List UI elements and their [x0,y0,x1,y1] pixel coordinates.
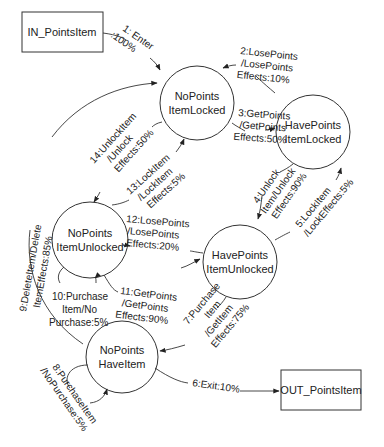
state-nopoints-haveitem: NoPoints HaveItem [86,321,158,393]
label-t2: 2:LosePoints /LosePoints Effects:10% [236,45,298,86]
state-label-line2: ItemLocked [169,104,226,116]
label-t6: 6:Exit:10% [192,377,241,395]
label-t10: 10:Purchase Item/No Purchase:5% [49,291,109,328]
edge-1b [150,58,160,70]
label-t13: 13:LockItem /LockItem Effects:5% [124,152,188,214]
edge-14b [94,192,100,202]
out-terminal: OUT_PointsItem [280,370,361,410]
state-label-line2: ItemUnlocked [206,263,273,275]
edge-12 [190,251,203,253]
edge-13 [112,200,129,205]
edge-2b [223,65,236,68]
label-t1: 1: Enter :100% [109,19,156,62]
edge-6 [155,368,188,383]
edge-7b [160,345,185,351]
edge-10b [95,278,96,283]
label-t12: 12:LosePoints /LosePoints Effects:20% [124,213,190,253]
in-terminal: IN_PointsItem [22,12,103,52]
edge-10 [58,267,64,283]
state-label-line2: ItemUnlocked [56,241,123,253]
edge-8b [90,389,107,403]
state-label-line1: NoPoints [175,90,220,102]
state-havepoints-itemlocked: HavePoints ItemLocked [276,95,350,169]
edge-13b [176,139,184,152]
state-label-line1: HavePoints [285,119,342,131]
label-t11: 11:GetPoints /GetPoints Effects:90% [115,285,178,327]
svg-text:Effects:50%: Effects:50% [233,131,287,146]
state-nopoints-itemlocked: NoPoints ItemLocked [160,66,234,140]
edge-9b [52,83,157,137]
svg-text:6:Exit:10%: 6:Exit:10% [192,377,241,395]
edge-11 [104,275,118,292]
state-nopoints-itemunlocked: NoPoints ItemUnlocked [52,202,128,278]
svg-text:10:Purchase: 10:Purchase [52,291,109,302]
out-terminal-label: OUT_PointsItem [280,384,361,396]
state-label-line1: NoPoints [100,344,145,356]
state-label-line1: NoPoints [68,227,113,239]
edge-5b [336,168,341,180]
state-label-line2: ItemLocked [285,133,342,145]
label-t9: 9:DeleteItem/Delete ItemEffects:85% [17,223,56,315]
state-diagram: IN_PointsItem OUT_PointsItem NoPoints It… [0,0,384,447]
in-terminal-label: IN_PointsItem [27,26,96,38]
state-label-line2: HaveItem [98,358,145,370]
label-t3: 3:GetPoints /GetPoints Effects:50% [233,107,291,146]
svg-text:Item/No: Item/No [62,304,97,315]
edge-14 [152,122,162,127]
svg-text:Purchase:5%: Purchase:5% [49,317,109,328]
edge-5 [275,232,290,240]
edge-11b [181,259,200,268]
state-label-line1: HavePoints [212,249,269,261]
